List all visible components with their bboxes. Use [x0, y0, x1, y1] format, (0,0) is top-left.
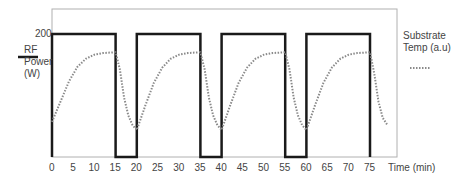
x-tick-label: 35 — [194, 162, 205, 174]
x-tick-label: 75 — [364, 162, 375, 174]
substrate-temp-series — [52, 52, 387, 130]
rf-power-label-3: (W) — [24, 68, 40, 80]
x-tick-label: 65 — [322, 162, 333, 174]
x-axis-title: Time (min) — [388, 162, 435, 174]
rf-power-series — [52, 34, 370, 157]
x-tick-label: 15 — [110, 162, 121, 174]
x-tick-label: 0 — [49, 162, 55, 174]
x-tick-label: 70 — [343, 162, 354, 174]
y-tick-200: 200 — [35, 28, 52, 40]
rf-power-label-2: Power — [24, 56, 52, 68]
temp-label-1: Substrate — [403, 30, 446, 42]
x-tick-label: 50 — [258, 162, 269, 174]
x-tick-label: 30 — [173, 162, 184, 174]
temp-label-2: Temp (a.u) — [403, 42, 451, 54]
x-tick-label: 40 — [216, 162, 227, 174]
x-tick-label: 10 — [88, 162, 99, 174]
plot-frame — [52, 9, 397, 157]
x-tick-label: 55 — [279, 162, 290, 174]
x-tick-label: 5 — [70, 162, 76, 174]
rf-power-label-1: RF — [24, 44, 37, 56]
x-tick-label: 25 — [152, 162, 163, 174]
x-tick-label: 20 — [131, 162, 142, 174]
chart-canvas — [0, 0, 463, 183]
x-tick-label: 45 — [237, 162, 248, 174]
x-tick-label: 60 — [300, 162, 311, 174]
